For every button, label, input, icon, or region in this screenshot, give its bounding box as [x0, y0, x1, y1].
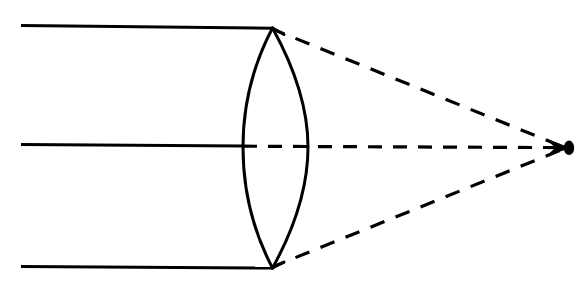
- diagram-canvas: [0, 0, 587, 300]
- focal-point-dot: [564, 141, 574, 155]
- lens-ray-diagram-figure: [0, 0, 587, 300]
- incoming-ray-axial: [21, 145, 244, 147]
- incoming-ray-lower: [21, 267, 272, 269]
- figure-background: [0, 0, 587, 300]
